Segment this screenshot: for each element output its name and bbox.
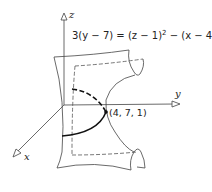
y-axis-label: y — [175, 89, 181, 99]
equation-lhs: 3(y − 7) = (z − 1) — [72, 30, 162, 41]
x-axis-arrow-icon — [13, 149, 21, 157]
surface-left-edge — [54, 57, 63, 168]
z-axis-label: z — [69, 10, 74, 20]
surface-top-edge — [54, 50, 129, 57]
y-axis — [64, 104, 176, 105]
surface-back-top-edge — [75, 59, 143, 66]
surface-back-left-edge — [72, 66, 75, 155]
y-axis-arrow-icon — [172, 101, 180, 107]
equation-mid: − (x − 4) — [167, 30, 212, 41]
z-axis-arrow-icon — [61, 13, 67, 20]
point-label: (4, 7, 1) — [109, 108, 147, 118]
point-marker — [104, 110, 108, 114]
parabola-visible-curve — [62, 112, 106, 136]
surface-top-cap — [129, 50, 144, 75]
surface-bottom-edge — [57, 164, 131, 170]
x-axis — [17, 105, 64, 152]
parabola-hidden-curve — [72, 89, 106, 112]
x-axis-label: x — [24, 152, 30, 162]
surface-back-bottom-edge — [72, 152, 137, 155]
equation-label: 3(y − 7) = (z − 1)2 − (x − 4)2 — [72, 31, 212, 41]
